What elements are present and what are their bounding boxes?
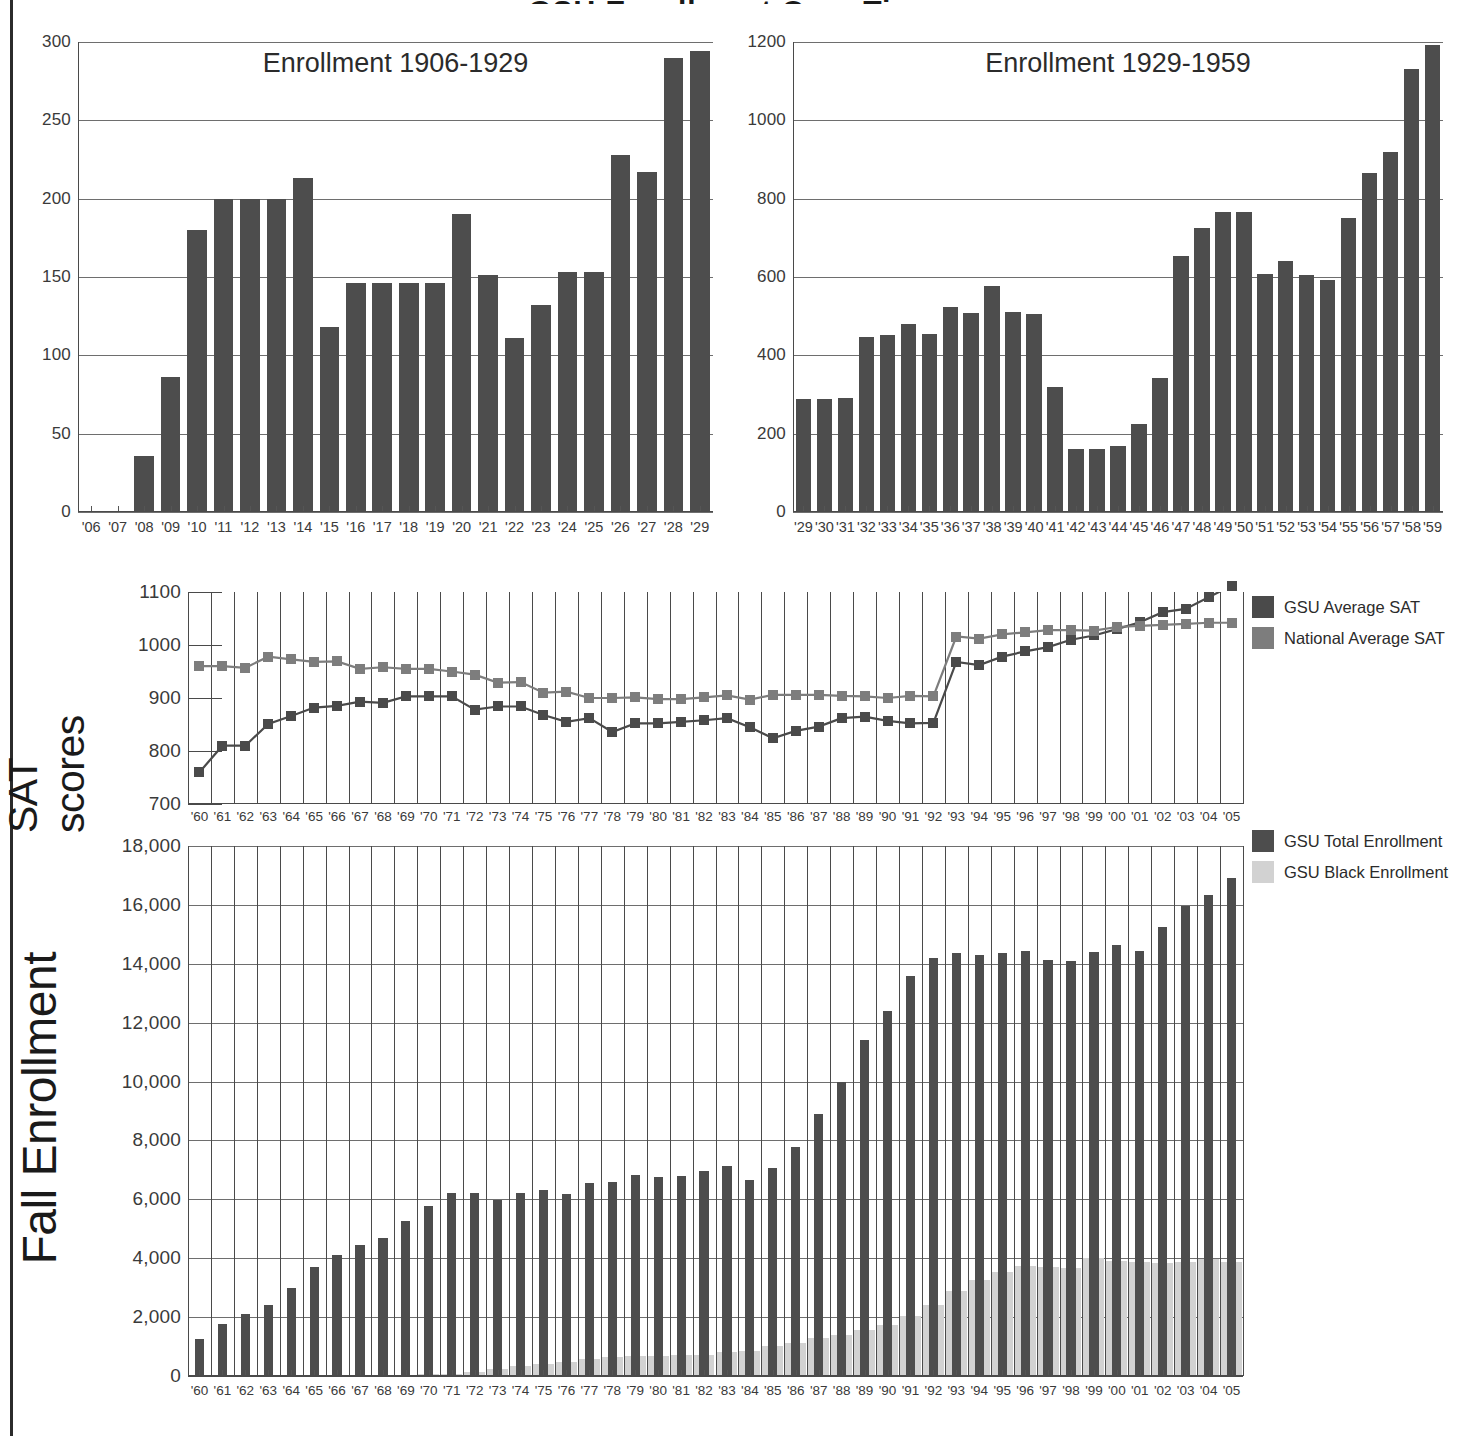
x-axis-tick-label: '61 — [214, 1383, 232, 1398]
chart-enrollment-1906-1929: Enrollment 1906-1929 050100150200250300'… — [18, 18, 718, 518]
y-axis-line — [793, 42, 794, 512]
bar — [293, 178, 313, 512]
bar-total-enrollment — [562, 1194, 571, 1376]
x-axis-tick-label: '82 — [695, 1383, 713, 1398]
y-axis-tick: 600 — [757, 267, 786, 287]
plot-area-1906: Enrollment 1906-1929 050100150200250300'… — [78, 42, 713, 512]
bar — [1047, 387, 1063, 512]
x-axis-tick-label: '45 — [1130, 519, 1149, 535]
x-axis-tick-label: '92 — [925, 1383, 943, 1398]
legend-label-black-enrollment: GSU Black Enrollment — [1284, 863, 1448, 882]
x-axis-tick-label: '83 — [718, 809, 736, 824]
x-axis-tick-label: '09 — [161, 519, 180, 535]
x-axis-tick-label: '75 — [535, 809, 553, 824]
legend-swatch-black-enrollment — [1252, 861, 1274, 883]
x-axis-tick-label: '33 — [878, 519, 897, 535]
fall-legend: GSU Total Enrollment GSU Black Enrollmen… — [1252, 830, 1448, 892]
x-axis-tick-label: '26 — [611, 519, 630, 535]
sat-point-gsu — [240, 741, 250, 751]
bar — [664, 58, 684, 512]
x-axis-tick-label: '37 — [962, 519, 981, 535]
x-axis-tick-label: '62 — [237, 809, 255, 824]
plot-area-sat: 70080090010001100'60'61'62'63'64'65'66'6… — [188, 592, 1243, 804]
x-axis-tick-label: '58 — [1402, 519, 1421, 535]
x-axis-tick-label: '02 — [1154, 1383, 1172, 1398]
bar — [1131, 424, 1147, 512]
sat-point-gsu — [928, 718, 938, 728]
sat-point-national — [745, 695, 755, 705]
bar — [505, 338, 525, 512]
y-axis-line — [188, 846, 189, 1376]
x-axis-tick-label: '04 — [1200, 1383, 1218, 1398]
x-axis-tick-label: '36 — [941, 519, 960, 535]
sat-point-national — [630, 692, 640, 702]
sat-point-gsu — [974, 660, 984, 670]
sat-point-national — [584, 693, 594, 703]
y-axis-line — [78, 42, 79, 512]
x-axis-tick-label: '99 — [1085, 809, 1103, 824]
x-axis-line — [188, 1375, 1243, 1376]
x-axis-tick-label: '49 — [1213, 519, 1232, 535]
bar — [1257, 274, 1273, 512]
sat-point-gsu — [1181, 604, 1191, 614]
x-axis-tick-label: '68 — [374, 1383, 392, 1398]
y-axis-tick: 50 — [52, 424, 71, 444]
x-axis-tick-label: '64 — [282, 1383, 300, 1398]
sat-point-gsu — [561, 717, 571, 727]
bar-total-enrollment — [998, 953, 1007, 1376]
gridline — [188, 1376, 1243, 1377]
sat-point-national — [905, 691, 915, 701]
bar-total-enrollment — [424, 1206, 433, 1376]
x-axis-tick-label: '01 — [1131, 809, 1149, 824]
sat-point-gsu — [883, 716, 893, 726]
bar-total-enrollment — [722, 1166, 731, 1376]
sat-point-gsu — [1043, 642, 1053, 652]
bar — [399, 283, 419, 512]
x-axis-tick-label: '41 — [1046, 519, 1065, 535]
x-axis-tick-label: '98 — [1062, 1383, 1080, 1398]
sat-point-gsu — [997, 652, 1007, 662]
x-axis-tick-label: '56 — [1360, 519, 1379, 535]
x-axis-tick-label: '93 — [948, 1383, 966, 1398]
y-axis-tick: 14,000 — [122, 953, 181, 975]
x-axis-tick-label: '81 — [672, 1383, 690, 1398]
x-axis-tick-label: '62 — [237, 1383, 255, 1398]
sat-point-national — [240, 663, 250, 673]
grid-vline — [234, 846, 235, 1376]
sat-point-national — [1181, 619, 1191, 629]
sat-point-national — [355, 664, 365, 674]
x-axis-tick-label: '84 — [741, 1383, 759, 1398]
bar-total-enrollment — [699, 1171, 708, 1376]
x-axis-tick-label: '60 — [191, 1383, 209, 1398]
sat-series-lines — [188, 592, 1243, 804]
x-axis-tick-label: '98 — [1062, 809, 1080, 824]
bar — [214, 199, 234, 512]
bar-total-enrollment — [906, 976, 915, 1376]
bar — [531, 305, 551, 512]
x-axis-tick-label: '76 — [558, 809, 576, 824]
grid-vline — [876, 846, 877, 1376]
sat-point-gsu — [493, 701, 503, 711]
sat-point-national — [676, 694, 686, 704]
x-axis-tick-label: '60 — [191, 809, 209, 824]
bar — [838, 398, 854, 512]
y-axis-tick: 1000 — [747, 110, 786, 130]
sat-point-gsu — [447, 691, 457, 701]
y-axis-tick: 100 — [42, 345, 71, 365]
bar — [901, 324, 917, 512]
bar — [425, 283, 445, 512]
x-axis-tick-label: '03 — [1177, 809, 1195, 824]
sat-point-gsu — [1066, 635, 1076, 645]
x-axis-tick-label: '21 — [479, 519, 498, 535]
x-axis-tick-label: '96 — [1016, 809, 1034, 824]
sat-point-national — [217, 661, 227, 671]
grid-vline — [211, 846, 212, 1376]
bar-total-enrollment — [241, 1314, 250, 1376]
sat-point-national — [1204, 618, 1214, 628]
legend-item-total-enrollment: GSU Total Enrollment — [1252, 830, 1448, 852]
bar-total-enrollment — [608, 1182, 617, 1376]
x-axis-tick-label: '59 — [1423, 519, 1442, 535]
sat-point-gsu — [584, 713, 594, 723]
x-axis-tick-label: '67 — [351, 809, 369, 824]
bar — [584, 272, 604, 512]
